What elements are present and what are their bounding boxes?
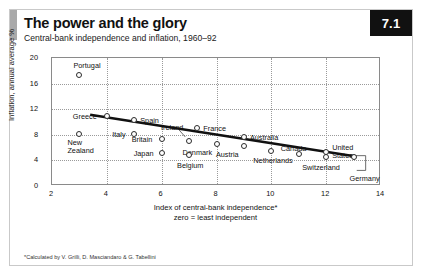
plot-area: PortugalGreeceNewZealandSpainItalyBritai… — [51, 57, 380, 185]
data-point — [186, 152, 192, 158]
data-point-label: Spain — [140, 117, 159, 125]
x-axis-tick: 10 — [260, 189, 280, 198]
y-axis-tick: 20 — [18, 53, 38, 62]
data-point-label: France — [203, 125, 226, 133]
data-point-label: Switzerland — [302, 164, 340, 172]
x-axis-tick: 12 — [315, 189, 335, 198]
data-point — [194, 125, 200, 131]
y-axis-tick: 16 — [18, 78, 38, 87]
x-axis-tick: 6 — [151, 189, 171, 198]
x-axis-tick: 8 — [206, 189, 226, 198]
data-point-label: Portugal — [73, 62, 100, 70]
data-point-label: Belgium — [177, 162, 203, 170]
data-point — [76, 131, 82, 137]
data-point-label: Britain — [132, 136, 153, 144]
data-point-label: Canada — [281, 145, 307, 153]
y-axis-tick: 0 — [18, 181, 38, 190]
data-point — [131, 117, 137, 123]
y-axis-tick: 12 — [18, 104, 38, 113]
data-point-label: Greece — [73, 113, 97, 121]
y-axis-tick: 8 — [18, 129, 38, 138]
data-point-label: Austria — [216, 151, 239, 159]
data-point — [214, 141, 220, 147]
data-point — [159, 136, 165, 142]
data-point — [351, 154, 357, 160]
data-point — [186, 138, 192, 144]
data-point — [104, 113, 110, 119]
data-point — [76, 72, 82, 78]
chart-footnote: *Calculated by V. Grilli, D. Masciandaro… — [24, 254, 156, 260]
data-point — [241, 134, 247, 140]
data-point — [241, 143, 247, 149]
chart-subtitle: Central-bank independence and inflation,… — [24, 33, 217, 43]
figure-number-badge: 7.1 — [370, 10, 412, 36]
data-point — [323, 149, 329, 155]
chart-title: The power and the glory — [24, 15, 187, 31]
x-axis-label: Index of central-bank independence* zero… — [51, 203, 380, 223]
x-axis-tick: 4 — [96, 189, 116, 198]
x-axis-label-note: zero = least independent — [51, 213, 380, 223]
data-point-label: Australia — [250, 134, 278, 142]
y-axis-tick: 4 — [18, 155, 38, 164]
x-axis-label-main: Index of central-bank independence* — [51, 203, 380, 213]
data-point — [268, 148, 274, 154]
x-axis-tick: 14 — [370, 189, 390, 198]
figure-panel: 7.1 The power and the glory Central-bank… — [9, 9, 413, 266]
data-point-label: Netherlands — [253, 157, 292, 165]
data-point-label: Japan — [134, 150, 154, 158]
data-point-label: Italy — [112, 131, 125, 139]
data-point — [159, 150, 165, 156]
data-point-label-line: Zealand — [67, 147, 93, 155]
x-axis-tick: 2 — [41, 189, 61, 198]
data-point-label: Ireland — [161, 124, 183, 132]
data-point-label: Germany — [350, 175, 380, 183]
data-point-label: NewZealand — [67, 139, 93, 155]
y-axis-label: Inflation, annual average % — [7, 29, 16, 121]
